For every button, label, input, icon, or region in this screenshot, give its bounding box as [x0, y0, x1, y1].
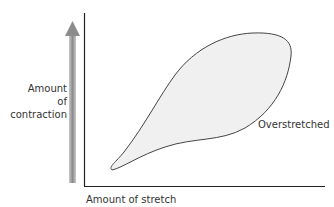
x-axis-label: Amount of stretch — [86, 193, 176, 206]
diagram: Amount of contraction Amount of stretch … — [0, 0, 334, 207]
y-axis-label: Amount of contraction — [17, 82, 67, 121]
up-arrow-icon — [65, 21, 80, 183]
y-label-line1: Amount of — [17, 82, 67, 108]
overstretched-region — [111, 33, 291, 170]
overstretched-label: Overstretched — [258, 118, 329, 131]
y-label-line2: contraction — [5, 108, 67, 121]
